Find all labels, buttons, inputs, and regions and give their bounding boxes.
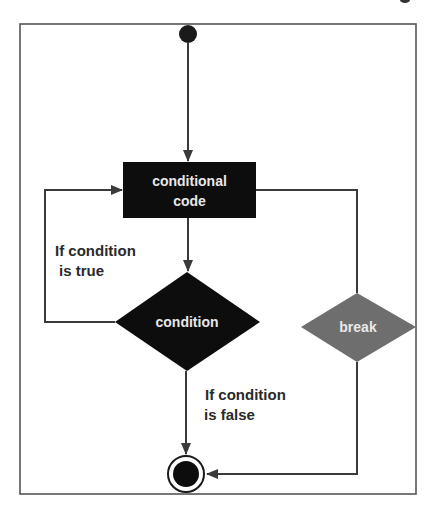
flowchart-diagram: conditional code condition If condition …	[0, 0, 440, 516]
label-true-line1: If condition	[55, 242, 136, 259]
clipped-fragment	[400, 0, 410, 3]
decision-node-condition: condition	[115, 272, 260, 371]
decision-node-break: break	[301, 293, 416, 362]
start-node	[179, 25, 197, 43]
edge-code-to-break	[256, 190, 357, 293]
action-node-conditional-code: conditional code	[123, 162, 256, 218]
final-node	[168, 456, 204, 492]
decision-label-condition: condition	[156, 314, 219, 330]
label-true-line2: is true	[59, 262, 104, 279]
label-false-line1: If condition	[205, 386, 286, 403]
decision-label-break: break	[339, 319, 377, 335]
action-label-line1: conditional	[152, 173, 227, 189]
label-false-line2: is false	[204, 406, 255, 423]
action-label-line2: code	[173, 193, 206, 209]
